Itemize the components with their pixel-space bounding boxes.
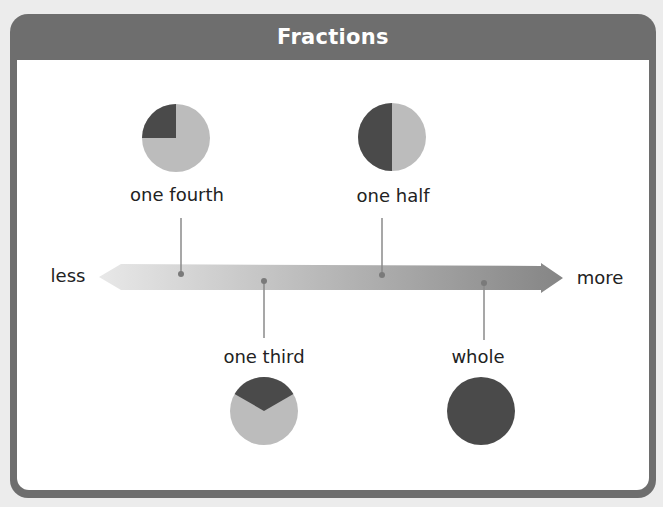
- pie-one-half-icon: [358, 103, 426, 171]
- dot-one-fourth: [178, 271, 184, 277]
- pie-whole-icon: [447, 377, 515, 445]
- label-one-half: one half: [357, 185, 430, 206]
- axis-label-less: less: [51, 265, 86, 286]
- fraction-number-line: [0, 0, 663, 507]
- dot-one-half: [379, 272, 385, 278]
- pie-one-fourth-icon: [142, 104, 210, 172]
- label-one-fourth: one fourth: [130, 184, 224, 205]
- label-whole: whole: [451, 346, 504, 367]
- number-line-arrow: [99, 263, 563, 293]
- axis-label-more: more: [577, 267, 624, 288]
- label-one-third: one third: [223, 346, 304, 367]
- dot-one-third: [261, 278, 267, 284]
- pie-one-third-icon: [230, 377, 298, 445]
- dot-whole: [481, 280, 487, 286]
